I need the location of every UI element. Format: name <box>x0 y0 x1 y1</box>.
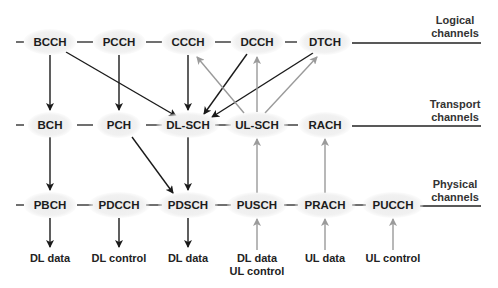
layer-label-physical-line1: Physical <box>431 178 479 191</box>
output-pbch: DL data <box>30 252 70 265</box>
node-ul-sch: UL-SCH <box>225 112 288 138</box>
output-pdsch: DL data <box>168 252 208 265</box>
node-pdcch: PDCCH <box>89 192 150 218</box>
node-pch: PCH <box>97 112 141 138</box>
output-pucch: UL control <box>366 252 421 265</box>
layer-label-physical-line2: channels <box>431 191 479 204</box>
node-bch: BCH <box>28 112 73 138</box>
node-pcch: PCCH <box>93 29 146 55</box>
layer-label-transport-line2: channels <box>430 111 481 124</box>
output-pusch-line1: DL data <box>237 252 277 265</box>
node-pucch: PUCCH <box>363 192 424 218</box>
node-pbch: PBCH <box>24 192 77 218</box>
node-pdsch: PDSCH <box>158 192 218 218</box>
uplink-arrows <box>197 57 393 250</box>
node-prach: PRACH <box>295 192 356 218</box>
node-dtch: DTCH <box>299 29 351 55</box>
node-ccch: CCCH <box>161 29 214 55</box>
layer-label-physical: Physical channels <box>431 178 479 204</box>
node-rach: RACH <box>298 112 351 138</box>
node-bcch: BCCH <box>23 29 76 55</box>
output-prach: UL data <box>305 252 345 265</box>
channel-mapping-diagram: BCCH PCCH CCCH DCCH DTCH BCH PCH DL-SCH … <box>0 0 498 288</box>
layer-label-logical-line2: channels <box>431 27 479 40</box>
layer-label-transport-line1: Transport <box>430 98 481 111</box>
node-dl-sch: DL-SCH <box>156 112 219 138</box>
layer-label-logical: Logical channels <box>431 14 479 40</box>
output-pusch-line2: UL control <box>230 265 285 278</box>
layer-label-transport: Transport channels <box>430 98 481 124</box>
output-pdcch: DL control <box>92 252 147 265</box>
node-dcch: DCCH <box>230 29 283 55</box>
layer-label-logical-line1: Logical <box>431 14 479 27</box>
node-pusch: PUSCH <box>227 192 287 218</box>
